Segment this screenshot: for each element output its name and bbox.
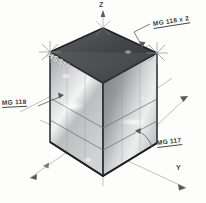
technical-sketch-canvas: MG 118 x 2 MG 118 MG 117 HSSU Z Y (0, 0, 206, 203)
y-axis-label: Y (176, 164, 181, 171)
glass-cube-body (50, 28, 157, 176)
sparkle-top-right (146, 42, 168, 64)
z-axis-label: Z (99, 1, 103, 8)
x-arrowhead-secondary (43, 163, 49, 169)
y-arrowhead-near (180, 96, 188, 102)
sketch-drawing (0, 0, 206, 203)
z-arrowhead (101, 10, 106, 17)
annotation-left: MG 118 (2, 98, 27, 108)
